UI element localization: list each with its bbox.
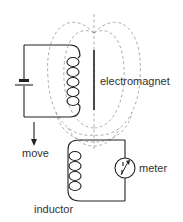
battery-icon <box>15 79 33 85</box>
meter-label: meter <box>139 162 167 174</box>
wire-inductor-top-bend <box>68 140 80 150</box>
electromagnet-label: electromagnet <box>100 75 170 87</box>
move-arrow-icon <box>31 122 37 146</box>
wire-top <box>24 45 80 56</box>
inductor-circuit <box>68 140 135 201</box>
wire-inductor-bottom <box>68 190 125 201</box>
electromagnet-coil-icon <box>67 56 80 106</box>
inductor-label: inductor <box>34 203 73 215</box>
electromagnetic-induction-diagram: electromagnet move meter <box>0 0 183 222</box>
move-label: move <box>22 147 49 159</box>
electromagnet-circuit <box>15 45 94 117</box>
inductor-coil-icon <box>68 150 81 191</box>
meter-icon <box>115 158 135 178</box>
